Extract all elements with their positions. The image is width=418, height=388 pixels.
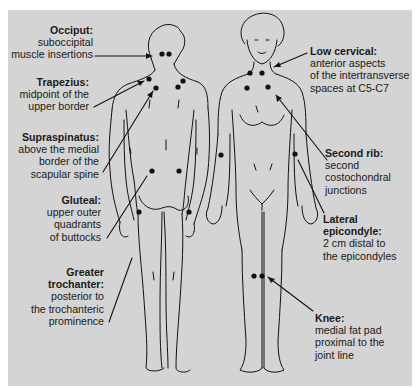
label-knee: Knee: medial fat pad proximal to the joi… [315,312,384,361]
gluteal-desc-2: quadrants [47,218,101,230]
posterior-figure [109,25,209,373]
label-greater-trochanter: Greater trochanter: posterior to the tro… [31,266,104,327]
supraspinatus-title: Supraspinatus: [18,131,99,143]
supraspinatus-desc-3: scapular spine [18,168,99,180]
lateral-epicondyle-desc-2: the epicondyles [323,250,397,262]
greater-trochanter-desc-3: prominence [31,315,104,327]
occiput-title: Occiput: [11,24,93,36]
low-cervical-title: Low cervical: [310,45,410,57]
trapezius-desc-1: midpoint of the [20,88,90,100]
knee-desc-2: proximal to the [315,336,384,348]
label-occiput: Occiput: suboccipital muscle insertions [11,24,93,61]
knee-desc-3: joint line [315,349,384,361]
occiput-desc-2: muscle insertions [11,48,93,60]
knee-desc-1: medial fat pad [315,324,384,336]
label-low-cervical: Low cervical: anterior aspects of the in… [310,45,410,94]
leader-lines [94,53,327,322]
label-trapezius: Trapezius: midpoint of the upper border [20,76,90,113]
gluteal-title: Gluteal: [47,194,101,206]
trapezius-desc-2: upper border [20,100,90,112]
gluteal-desc-1: upper outer [47,206,101,218]
gluteal-desc-3: of buttocks [47,231,101,243]
occiput-desc-1: suboccipital [11,36,93,48]
greater-trochanter-title-2: trochanter: [31,278,104,290]
second-rib-title: Second rib: [325,147,391,159]
label-second-rib: Second rib: second costochondral junctio… [325,147,391,196]
low-cervical-desc-3: spaces at C5-C7 [310,82,410,94]
label-supraspinatus: Supraspinatus: above the medial border o… [18,131,99,180]
greater-trochanter-title-1: Greater [31,266,104,278]
anterior-figure [206,13,317,372]
greater-trochanter-desc-1: posterior to [31,290,104,302]
supraspinatus-desc-2: border of the [18,155,99,167]
lateral-epicondyle-title-1: Lateral [323,213,397,225]
greater-trochanter-desc-2: the trochanteric [31,303,104,315]
low-cervical-desc-2: of the intertransverse [310,69,410,81]
tender-points [136,51,297,278]
label-gluteal: Gluteal: upper outer quadrants of buttoc… [47,194,101,243]
supraspinatus-desc-1: above the medial [18,143,99,155]
second-rib-desc-3: junctions [325,184,391,196]
second-rib-desc-1: second [325,159,391,171]
trapezius-title: Trapezius: [20,76,90,88]
label-lateral-epicondyle: Lateral epicondyle: 2 cm distal to the e… [323,213,397,262]
knee-title: Knee: [315,312,384,324]
second-rib-desc-2: costochondral [325,171,391,183]
lateral-epicondyle-desc-1: 2 cm distal to [323,237,397,249]
lateral-epicondyle-title-2: epicondyle: [323,225,397,237]
low-cervical-desc-1: anterior aspects [310,57,410,69]
